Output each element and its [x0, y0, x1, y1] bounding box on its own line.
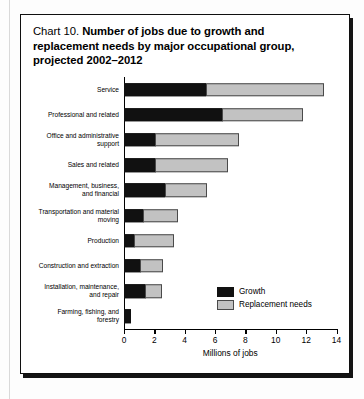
- bar-track: [122, 77, 339, 102]
- bar-row: Service: [33, 77, 339, 102]
- x-axis-tick-label: 0: [111, 335, 137, 345]
- x-axis-tick-label: 8: [232, 335, 258, 345]
- stacked-bar: [124, 108, 302, 122]
- stacked-bar: [124, 133, 239, 147]
- bar-segment-growth: [124, 83, 206, 97]
- bar-row-label: Management, business, and financial: [33, 182, 122, 198]
- bar-row-label: Office and administrative support: [33, 132, 122, 148]
- x-axis-title: Millions of jobs: [124, 348, 337, 358]
- bar-row-label: Transportation and material moving: [33, 208, 122, 224]
- bar-row-label: Service: [33, 86, 122, 94]
- x-axis-tick-mark: [337, 329, 338, 334]
- stacked-bar: [124, 209, 178, 223]
- stacked-bar: [124, 284, 161, 298]
- legend-swatch-replacement-icon: [217, 300, 234, 310]
- x-axis: 02468101214 Millions of jobs: [33, 329, 339, 375]
- legend-item-growth: Growth: [217, 287, 339, 297]
- bar-row: Office and administrative support: [33, 127, 339, 152]
- bar-segment-replacement: [206, 83, 324, 97]
- page-background: Chart 10. Number of jobs due to growth a…: [0, 0, 364, 399]
- bar-row-label: Construction and extraction: [33, 262, 122, 270]
- bar-segment-replacement: [155, 158, 228, 172]
- bar-segment-growth: [124, 284, 145, 298]
- legend-label-growth: Growth: [239, 287, 265, 296]
- scan-edge-artifact: [9, 0, 10, 399]
- bar-track: [122, 153, 339, 178]
- stacked-bar: [124, 259, 163, 273]
- bar-track: [122, 102, 339, 127]
- bar-row: Construction and extraction: [33, 253, 339, 278]
- bar-row-label: Production: [33, 237, 122, 245]
- x-axis-tick-label: 10: [263, 335, 289, 345]
- bar-segment-growth: [124, 184, 165, 198]
- bar-segment-replacement: [155, 133, 238, 147]
- bar-segment-replacement: [134, 234, 173, 248]
- stacked-bar: [124, 184, 207, 198]
- bar-segment-growth: [124, 310, 131, 324]
- bar-segment-replacement: [140, 259, 163, 273]
- bar-row-label: Professional and related: [33, 111, 122, 119]
- x-axis-tick-label: 4: [172, 335, 198, 345]
- legend-label-replacement: Replacement needs: [239, 300, 312, 309]
- bar-row-label: Sales and related: [33, 161, 122, 169]
- x-axis-tick-mark: [124, 329, 125, 334]
- chart-number-label: Chart 10.: [33, 25, 79, 37]
- x-axis-tick-mark: [154, 329, 155, 334]
- bar-track: [122, 228, 339, 253]
- bar-row: Transportation and material moving: [33, 203, 339, 228]
- stacked-bar: [124, 234, 173, 248]
- bar-row: Professional and related: [33, 102, 339, 127]
- stacked-bar: [124, 158, 228, 172]
- x-axis-tick-mark: [245, 329, 246, 334]
- chart-legend: Growth Replacement needs: [217, 287, 339, 313]
- x-axis-tick-label: 6: [202, 335, 228, 345]
- x-axis-tick-mark: [185, 329, 186, 334]
- x-axis-tick-label: 14: [324, 335, 350, 345]
- x-axis-line: [124, 329, 337, 330]
- bar-row-label: Farming, fishing, and forestry: [33, 308, 122, 324]
- bar-track: [122, 203, 339, 228]
- chart-title-line-3: projected 2002–2012: [33, 53, 335, 68]
- bar-row-label: Installation, maintenance, and repair: [33, 283, 122, 299]
- bar-segment-growth: [124, 209, 144, 223]
- chart-title-line-2: replacement needs by major occupational …: [33, 39, 335, 54]
- x-axis-tick-mark: [215, 329, 216, 334]
- bar-row: Production: [33, 228, 339, 253]
- x-axis-tick-label: 12: [293, 335, 319, 345]
- bar-segment-growth: [124, 259, 141, 273]
- bar-track: [122, 178, 339, 203]
- chart-title-text-1: Number of jobs due to growth and: [82, 25, 264, 37]
- bar-row: Management, business, and financial: [33, 178, 339, 203]
- bar-track: [122, 253, 339, 278]
- x-axis-tick-label: 2: [141, 335, 167, 345]
- bar-segment-growth: [124, 108, 223, 122]
- bar-row: Sales and related: [33, 153, 339, 178]
- x-axis-tick-mark: [276, 329, 277, 334]
- chart-title-line-1: Chart 10. Number of jobs due to growth a…: [33, 24, 335, 39]
- chart-figure: Chart 10. Number of jobs due to growth a…: [20, 14, 350, 374]
- bar-segment-growth: [124, 158, 156, 172]
- bar-segment-replacement: [222, 108, 302, 122]
- bar-segment-replacement: [145, 284, 162, 298]
- bar-track: [122, 127, 339, 152]
- bar-segment-growth: [124, 133, 156, 147]
- bar-segment-replacement: [143, 209, 178, 223]
- chart-title: Chart 10. Number of jobs due to growth a…: [33, 24, 335, 68]
- legend-swatch-growth-icon: [217, 287, 234, 297]
- x-axis-tick-mark: [306, 329, 307, 334]
- legend-item-replacement: Replacement needs: [217, 300, 339, 310]
- stacked-bar: [124, 310, 131, 324]
- bar-segment-replacement: [165, 184, 208, 198]
- stacked-bar: [124, 83, 324, 97]
